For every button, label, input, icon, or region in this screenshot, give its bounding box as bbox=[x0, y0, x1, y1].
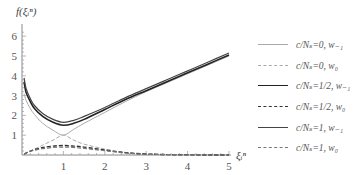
y-tick-label: 2 bbox=[12, 109, 18, 121]
plot-series bbox=[24, 53, 229, 155]
legend: c/Nₛ=0, w₋₁c/Nₛ=0, w₀c/Nₛ=1/2, w₋₁c/Nₛ=1… bbox=[258, 34, 357, 158]
y-tick-label: 1 bbox=[12, 129, 18, 141]
legend-label: c/Nₛ=1, w₋₁ bbox=[296, 122, 343, 133]
legend-line-swatch bbox=[258, 106, 288, 107]
legend-item: c/Nₛ=1/2, w₀ bbox=[258, 96, 357, 117]
series-line bbox=[24, 55, 229, 125]
legend-line-swatch bbox=[258, 85, 288, 86]
x-tick-label: 2 bbox=[102, 160, 108, 172]
legend-label: c/Nₛ=0, w₀ bbox=[296, 60, 338, 71]
legend-line-swatch bbox=[258, 65, 288, 66]
x-axis-title: ξᵢⁿ bbox=[236, 149, 246, 162]
legend-label: c/Nₛ=0, w₋₁ bbox=[296, 39, 343, 50]
legend-label: c/Nₛ=1/2, w₀ bbox=[296, 101, 345, 112]
x-tick-label: 5 bbox=[226, 160, 232, 172]
y-tick-label: 5 bbox=[12, 50, 18, 62]
legend-item: c/Nₛ=1, w₀ bbox=[258, 137, 357, 158]
x-tick-label: 1 bbox=[61, 160, 67, 172]
legend-line-swatch bbox=[258, 147, 288, 148]
legend-label: c/Nₛ=1, w₀ bbox=[296, 142, 338, 153]
x-tick-label: 4 bbox=[185, 160, 191, 172]
legend-label: c/Nₛ=1/2, w₋₁ bbox=[296, 80, 350, 91]
legend-line-swatch bbox=[258, 127, 288, 128]
y-tick-label: 3 bbox=[12, 90, 18, 102]
legend-item: c/Nₛ=0, w₋₁ bbox=[258, 34, 357, 55]
legend-item: c/Nₛ=1/2, w₋₁ bbox=[258, 75, 357, 96]
x-tick-label: 3 bbox=[143, 160, 149, 172]
legend-item: c/Nₛ=1, w₋₁ bbox=[258, 117, 357, 138]
series-line bbox=[24, 53, 229, 122]
legend-item: c/Nₛ=0, w₀ bbox=[258, 55, 357, 76]
y-tick-label: 4 bbox=[12, 70, 18, 82]
legend-line-swatch bbox=[258, 44, 288, 45]
axes: 12345612345 bbox=[12, 24, 233, 172]
y-axis-title: f(ξᵢⁿ) bbox=[16, 5, 37, 18]
y-tick-label: 6 bbox=[12, 30, 18, 42]
